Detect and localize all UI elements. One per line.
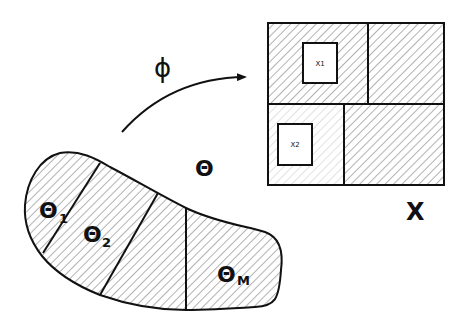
sample-x1-label: X1 — [315, 60, 324, 68]
region-theta-m-subscript: M — [237, 273, 250, 288]
source-space-label: Θ — [195, 156, 214, 181]
sample-x2: X2 — [278, 124, 312, 165]
region-theta-1-subscript: 1 — [59, 211, 68, 226]
cell-bottom-right — [344, 104, 444, 185]
sample-x2-label: X2 — [290, 141, 299, 149]
region-theta-2-label: Θ — [83, 222, 102, 247]
mapping-label-phi: ϕ — [154, 53, 171, 83]
target-space-x: X1 X2 — [268, 23, 444, 185]
region-theta-2-subscript: 2 — [102, 235, 111, 250]
mapping-arrow — [122, 77, 245, 132]
cell-top-right — [368, 23, 444, 104]
diagram-canvas: X1 X2 X ϕ Θ Θ 1 Θ 2 Θ M — [0, 0, 466, 328]
sample-x1: X1 — [303, 43, 337, 83]
source-space-theta: Θ 1 Θ 2 Θ M — [25, 152, 282, 310]
target-space-label: X — [406, 198, 425, 226]
region-theta-m-label: Θ — [217, 262, 236, 287]
region-theta-1-label: Θ — [39, 198, 58, 223]
